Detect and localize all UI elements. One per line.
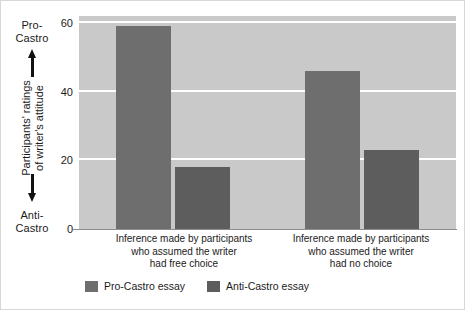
y-axis-top-label-line1: Pro- <box>21 19 42 31</box>
x-axis-group-label-0: Inference made by participants who assum… <box>89 233 279 271</box>
y-axis-tick-label-40: 40 <box>51 86 73 98</box>
x-group-0-line2: who assumed the writer <box>131 246 237 257</box>
y-axis-top-label-line2: Castro <box>16 32 49 44</box>
legend-item-0[interactable]: Pro-Castro essay <box>85 280 185 292</box>
bar-1-1 <box>364 150 419 229</box>
down-arrow-icon <box>28 174 37 202</box>
gridline-60 <box>79 21 456 23</box>
x-group-1-line1: Inference made by participants <box>293 233 430 244</box>
x-axis-group-label-1: Inference made by participants who assum… <box>266 233 456 271</box>
y-axis-bottom-label-line2: Castro <box>16 222 49 234</box>
y-axis-tick-label-20: 20 <box>51 154 73 166</box>
x-axis-baseline <box>73 229 457 230</box>
y-axis-tick-label-0: 0 <box>51 223 73 235</box>
legend-label-0: Pro-Castro essay <box>104 280 185 292</box>
bar-chart-figure: Pro- Castro Participants' ratings of wri… <box>0 0 465 310</box>
x-group-1-line2: who assumed the writer <box>308 246 414 257</box>
legend-swatch-0 <box>85 281 98 292</box>
legend-swatch-1 <box>207 281 220 292</box>
bar-0-1 <box>175 167 230 229</box>
bar-0-0 <box>116 26 171 229</box>
bar-1-0 <box>305 71 360 229</box>
x-group-0-line3: had free choice <box>150 258 218 269</box>
y-axis-rotated-line2: of writer's attitude <box>33 85 45 171</box>
x-group-1-line3: had no choice <box>330 258 392 269</box>
chart-legend: Pro-Castro essayAnti-Castro essay <box>85 280 309 292</box>
y-axis-tick-label-60: 60 <box>51 17 73 29</box>
x-group-0-line1: Inference made by participants <box>116 233 253 244</box>
y-axis-label: Pro- Castro Participants' ratings of wri… <box>1 19 63 234</box>
y-axis-rotated-line1: Participants' ratings <box>20 80 32 176</box>
y-axis-bottom-label-line1: Anti- <box>20 209 43 221</box>
legend-item-1[interactable]: Anti-Castro essay <box>207 280 309 292</box>
plot-area <box>79 16 456 229</box>
legend-label-1: Anti-Castro essay <box>226 280 309 292</box>
